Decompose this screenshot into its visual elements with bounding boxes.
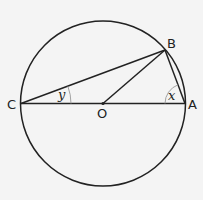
label-c: C <box>7 97 16 112</box>
angle-label-y: y <box>57 87 66 102</box>
center-point <box>101 102 104 105</box>
label-b: B <box>167 36 176 51</box>
circle-diagram: C O A B y x <box>0 0 203 200</box>
angle-label-x: x <box>168 88 176 103</box>
label-o: O <box>97 106 107 121</box>
label-a: A <box>188 97 197 112</box>
